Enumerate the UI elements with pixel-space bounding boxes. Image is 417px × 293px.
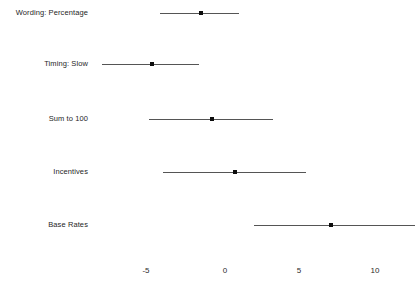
row-label-incentives: Incentives <box>53 168 88 176</box>
row-label-wording-percentage: Wording: Percentage <box>16 9 88 17</box>
point-estimate-sum-to-100 <box>210 117 214 121</box>
forest-plot-chart: Wording: Percentage Timing: Slow Sum to … <box>0 0 417 293</box>
point-estimate-incentives <box>233 170 237 174</box>
plot-area: Wording: Percentage Timing: Slow Sum to … <box>0 0 417 293</box>
row-label-timing-slow: Timing: Slow <box>44 60 88 68</box>
x-tick-label-0: 0 <box>205 267 245 275</box>
confidence-interval-base-rates <box>254 225 414 226</box>
x-tick-label-neg5: -5 <box>126 267 166 275</box>
x-tick-label-5: 5 <box>279 267 319 275</box>
x-axis <box>0 248 417 249</box>
x-tick-label-10: 10 <box>355 267 395 275</box>
point-estimate-wording-percentage <box>199 11 203 15</box>
point-estimate-base-rates <box>329 223 333 227</box>
row-label-sum-to-100: Sum to 100 <box>49 115 88 123</box>
row-label-base-rates: Base Rates <box>48 221 88 229</box>
point-estimate-timing-slow <box>150 62 154 66</box>
